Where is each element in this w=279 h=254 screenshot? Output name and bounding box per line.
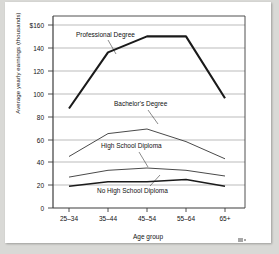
series-label-bachelors-degree: Bachelor's Degree — [114, 100, 167, 107]
page-corner-mark — [238, 238, 243, 242]
y-tick-label: 140 — [14, 45, 44, 52]
series-label-high-school-diploma: High School Diploma — [101, 142, 162, 149]
series-label-no-high-school-diploma: No High School Diploma — [97, 187, 168, 194]
x-tick-label: 35–44 — [86, 215, 130, 222]
y-tick-label: $160 — [14, 22, 44, 29]
chart-page: Average yearly earnings (thousands) $160… — [0, 0, 279, 254]
y-tick-label: 0 — [14, 205, 44, 212]
y-tick-label: 100 — [14, 91, 44, 98]
x-tick-label: 45–54 — [125, 215, 169, 222]
y-tick-marks — [48, 25, 53, 208]
x-tick-label: 55–64 — [164, 215, 208, 222]
x-tick-label: 65+ — [203, 215, 247, 222]
series-label-professional-degree: Professional Degree — [76, 31, 135, 38]
y-tick-label: 120 — [14, 68, 44, 75]
x-tick-marks — [69, 208, 225, 212]
series-line-high-school-diploma — [69, 168, 225, 177]
plot-frame — [53, 16, 245, 208]
x-tick-label: 25–34 — [47, 215, 91, 222]
x-axis-title: Age group — [48, 233, 248, 240]
annotation-leaders — [108, 40, 160, 186]
y-tick-label: 60 — [14, 137, 44, 144]
y-tick-label: 20 — [14, 182, 44, 189]
y-tick-label: 80 — [14, 114, 44, 121]
y-tick-label: 40 — [14, 159, 44, 166]
series-line-professional-degree — [69, 36, 225, 108]
